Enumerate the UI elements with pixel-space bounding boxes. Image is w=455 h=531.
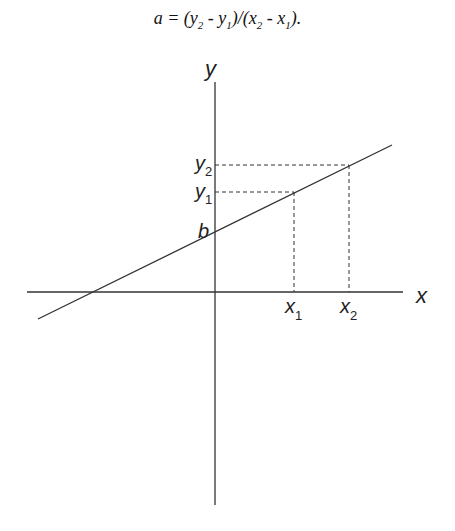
intercept-label-b: b	[198, 220, 209, 242]
y-axis-label: y	[203, 56, 218, 81]
x1-label: x1	[284, 295, 302, 323]
x2-label: x2	[339, 295, 357, 323]
y2-label: y2	[193, 152, 212, 179]
y1-label: y1	[193, 180, 212, 207]
graph: y x b y1 y2 x1 x2	[0, 0, 455, 531]
x-axis-label: x	[415, 283, 428, 308]
